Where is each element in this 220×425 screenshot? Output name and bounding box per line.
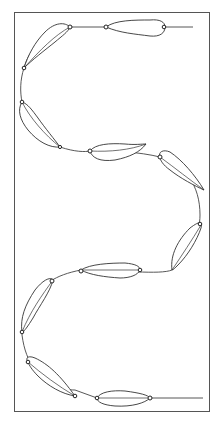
pod-9 bbox=[26, 357, 77, 398]
pod-8 bbox=[20, 279, 54, 334]
pod-5 bbox=[158, 151, 204, 190]
pod-10 bbox=[95, 391, 152, 406]
pod-6 bbox=[172, 222, 202, 270]
stem-line bbox=[21, 27, 203, 398]
pod-3 bbox=[20, 100, 62, 148]
pod-vine-drawing bbox=[0, 0, 220, 425]
pod-1 bbox=[104, 20, 166, 36]
pod-2 bbox=[22, 24, 72, 70]
pod-7 bbox=[79, 263, 142, 278]
pod-4 bbox=[88, 144, 146, 161]
